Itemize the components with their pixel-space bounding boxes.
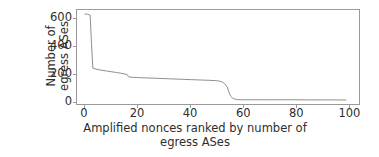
x-axis-label-line1: Amplified nonces ranked by number of	[40, 122, 350, 136]
y-tick-label: 400	[28, 40, 72, 52]
y-tick-mark	[73, 18, 76, 19]
x-tick-mark	[296, 105, 297, 108]
y-tick-label: 0	[28, 96, 72, 108]
y-tick-mark	[73, 74, 76, 75]
line-plot-svg	[77, 10, 359, 104]
x-tick-mark	[243, 105, 244, 108]
data-series-line	[85, 14, 346, 100]
x-axis-label: Amplified nonces ranked by number of egr…	[40, 122, 350, 149]
y-tick-mark	[73, 46, 76, 47]
y-tick-mark	[73, 102, 76, 103]
x-tick-label: 40	[183, 107, 198, 119]
x-tick-mark	[190, 105, 191, 108]
x-tick-mark	[84, 105, 85, 108]
y-tick-label: 200	[28, 68, 72, 80]
plot-area	[76, 9, 360, 105]
chart-figure: Number of egress ASes 0200400600 0204060…	[0, 0, 379, 157]
y-tick-label: 600	[28, 12, 72, 24]
x-tick-label: 80	[289, 107, 304, 119]
x-tick-label: 60	[236, 107, 251, 119]
x-tick-label: 100	[338, 107, 360, 119]
x-tick-mark	[349, 105, 350, 108]
x-tick-label: 0	[80, 107, 87, 119]
x-axis-label-line2: egress ASes	[40, 136, 350, 150]
x-tick-mark	[137, 105, 138, 108]
x-tick-label: 20	[130, 107, 145, 119]
